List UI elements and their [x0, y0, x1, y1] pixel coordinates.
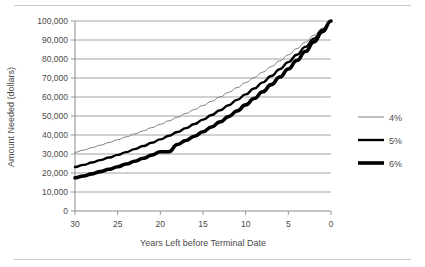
line-chart: 010,00020,00030,00040,00050,00060,00070,… [0, 0, 425, 267]
y-tick-label: 40,000 [42, 130, 68, 140]
y-tick-label: 50,000 [42, 111, 68, 121]
y-tick-label: 10,000 [42, 187, 68, 197]
x-tick-label: 20 [156, 219, 166, 229]
x-tick-label: 15 [198, 219, 208, 229]
chart-legend: 4%5%6% [358, 113, 402, 169]
chart-figure: 010,00020,00030,00040,00050,00060,00070,… [0, 0, 425, 267]
x-tick-label: 10 [241, 219, 251, 229]
x-tick-label: 5 [286, 219, 291, 229]
x-tick-label: 0 [329, 219, 334, 229]
legend-label-6pct: 6% [389, 159, 402, 169]
y-tick-label: 60,000 [42, 92, 68, 102]
y-tick-label: 20,000 [42, 168, 68, 178]
y-tick-label: 100,000 [37, 16, 68, 26]
x-tick-label: 30 [70, 219, 80, 229]
legend-label-5pct: 5% [389, 136, 402, 146]
y-tick-label: 80,000 [42, 54, 68, 64]
y-tick-labels: 010,00020,00030,00040,00050,00060,00070,… [37, 16, 75, 216]
y-tick-label: 70,000 [42, 73, 68, 83]
series-line-5pct [75, 21, 331, 167]
x-axis-title: Years Left before Terminal Date [140, 238, 266, 248]
y-axis-title: Amount Needed (dollars) [6, 67, 16, 167]
x-tick-marks [75, 211, 331, 215]
y-tick-label: 0 [63, 206, 68, 216]
y-tick-label: 90,000 [42, 35, 68, 45]
x-tick-labels: 302520151050 [70, 219, 333, 229]
legend-label-4pct: 4% [389, 113, 402, 123]
x-tick-label: 25 [113, 219, 123, 229]
y-tick-label: 30,000 [42, 149, 68, 159]
